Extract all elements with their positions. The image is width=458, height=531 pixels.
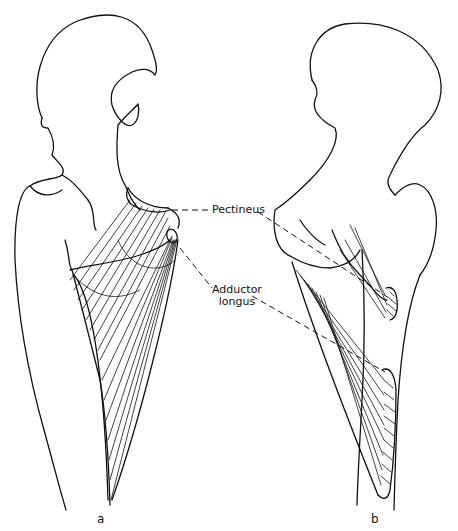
panel-label-a: a (97, 512, 104, 526)
leader-lines (172, 210, 392, 372)
panel-a-drawing (15, 15, 179, 510)
anatomy-diagram (0, 0, 458, 531)
label-adductor-longus: Adductor longus (212, 284, 262, 308)
panel-label-b: b (371, 512, 379, 526)
label-adductor-longus-line2: longus (212, 296, 262, 308)
panel-b-drawing (274, 23, 441, 510)
label-pectineus: Pectineus (212, 204, 265, 216)
